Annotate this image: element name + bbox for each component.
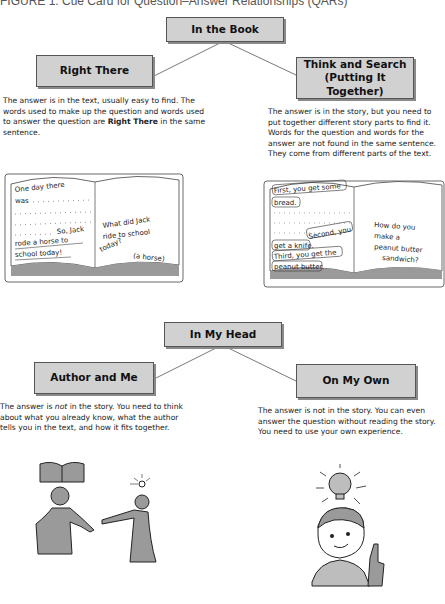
- in-the-book-box: In the Book: [166, 17, 284, 42]
- think-and-search-book-illustration: First, you get some bread. Second, you g…: [262, 175, 445, 290]
- in-my-head-title: In My Head: [190, 328, 257, 341]
- think-and-search-title-line1: Think and Search: [304, 58, 407, 71]
- on-my-own-title: On My Own: [322, 374, 389, 387]
- on-my-own-description: The answer is not in the story. You can …: [258, 406, 444, 438]
- on-my-own-illustration: [304, 462, 404, 597]
- right-there-book-illustration: One day there was So, Jack rode a horse …: [3, 170, 185, 285]
- svg-text:bread.: bread.: [274, 199, 296, 207]
- right-there-title: Right There: [60, 64, 129, 77]
- author-and-me-description: The answer is not in the story. You need…: [0, 402, 196, 434]
- right-there-description: The answer is in the text, usually easy …: [3, 96, 208, 138]
- svg-text:get a knife.: get a knife.: [274, 242, 314, 250]
- svg-text:peanut butter.: peanut butter.: [274, 263, 324, 271]
- author-and-me-box: Author and Me: [34, 362, 154, 394]
- author-and-me-title: Author and Me: [50, 371, 137, 384]
- think-and-search-box: Think and Search (Putting It Together): [296, 57, 414, 99]
- in-the-book-title: In the Book: [191, 23, 259, 36]
- on-my-own-box: On My Own: [296, 364, 416, 398]
- think-and-search-description: The answer is in the story, but you need…: [268, 107, 445, 160]
- right-there-box: Right There: [36, 55, 153, 87]
- think-and-search-title-line2: (Putting It Together): [297, 71, 413, 97]
- in-my-head-box: In My Head: [164, 322, 282, 347]
- svg-text:was: was: [15, 197, 29, 205]
- author-and-me-illustration: [30, 462, 170, 577]
